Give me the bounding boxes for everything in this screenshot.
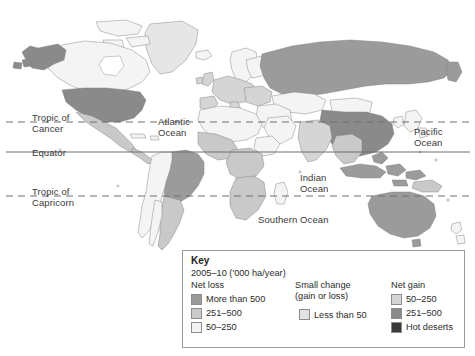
legend-swatch-small-change-less-than-50 xyxy=(299,309,310,320)
legend-item: Less than 50 xyxy=(299,309,367,320)
legend-swatch-hot-deserts xyxy=(391,322,402,333)
legend-label: More than 500 xyxy=(206,294,265,304)
legend-column-small-change: Small change (gain or loss) Less than 50 xyxy=(295,280,367,320)
legend-label: 251–500 xyxy=(206,308,242,318)
legend-heading-net-gain: Net gain xyxy=(391,280,453,291)
legend-column-net-gain: Net gain 50–250 251–500 Hot deserts xyxy=(391,280,453,333)
legend-period: 2005–10 ('000 ha/year) xyxy=(191,268,286,278)
legend-swatch-net-gain-251-500 xyxy=(391,308,402,319)
legend-label: 50–250 xyxy=(206,322,237,332)
legend-heading-net-loss: Net loss xyxy=(191,280,265,291)
label-indian-ocean: Indian Ocean xyxy=(300,172,329,194)
legend-item: 50–250 xyxy=(391,294,453,305)
legend-item: 50–250 xyxy=(191,322,265,333)
legend-title: Key xyxy=(191,255,209,266)
label-southern-ocean: Southern Ocean xyxy=(258,214,329,225)
legend-label: Less than 50 xyxy=(314,310,367,320)
legend-swatch-net-gain-50-250 xyxy=(391,294,402,305)
legend-item: 251–500 xyxy=(391,308,453,319)
map-legend: Key 2005–10 ('000 ha/year) Net loss More… xyxy=(182,250,465,348)
legend-label: 50–250 xyxy=(406,294,437,304)
legend-heading-small-change: Small change (gain or loss) xyxy=(295,280,367,301)
legend-item: Hot deserts xyxy=(391,322,453,333)
legend-swatch-net-loss-more-than-500 xyxy=(191,294,202,305)
legend-swatch-net-loss-251-500 xyxy=(191,308,202,319)
world-map-figure: .cs{stroke:#7d7d7d;stroke-width:.45;stro… xyxy=(0,0,475,356)
legend-label: 251–500 xyxy=(406,308,442,318)
label-tropic-of-capricorn: Tropic of Capricorn xyxy=(32,186,74,208)
legend-item: More than 500 xyxy=(191,294,265,305)
label-tropic-of-cancer: Tropic of Cancer xyxy=(32,112,70,134)
page-edge xyxy=(0,350,475,356)
label-equator: Equator xyxy=(32,147,66,158)
legend-column-net-loss: Net loss More than 500 251–500 50–250 xyxy=(191,280,265,333)
legend-label: Hot deserts xyxy=(406,322,453,332)
legend-item: 251–500 xyxy=(191,308,265,319)
label-pacific-ocean: Pacific Ocean xyxy=(414,126,443,148)
label-atlantic-ocean: Atlantic Ocean xyxy=(158,116,190,138)
legend-swatch-net-loss-50-250 xyxy=(191,322,202,333)
